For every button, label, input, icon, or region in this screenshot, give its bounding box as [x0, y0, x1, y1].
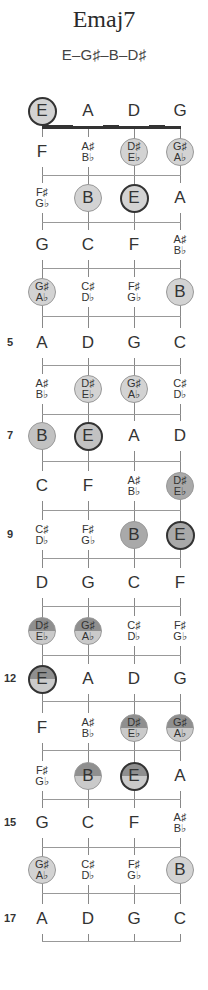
fret-note-fret4-d-string: F♯G♭ — [119, 277, 149, 307]
fret-note-fret12-a-string: A — [73, 664, 103, 694]
note-name: B — [82, 188, 93, 208]
note-name-flat: D♭ — [173, 389, 188, 400]
note-name: E — [36, 669, 47, 689]
chord-tone-marker-fret13-g-string: G♯A♭ — [166, 714, 194, 742]
fret-line — [42, 941, 181, 942]
note-name: B — [174, 282, 185, 302]
chord-tone-marker-fret6-d-string: G♯A♭ — [120, 375, 148, 403]
fret-note-fret17-d-string: G — [119, 904, 149, 934]
fret-note-fret10-e-string: D — [27, 568, 57, 598]
fret-note-fret8-a-string: F — [73, 471, 103, 501]
fret-note-fret5-d-string: G — [119, 328, 149, 358]
fret-line — [42, 365, 181, 366]
note-name: G — [34, 813, 49, 833]
note-name-flat: E♭ — [36, 631, 48, 642]
fret-line — [42, 847, 181, 848]
note-name: E — [128, 766, 139, 786]
fret-note-fret17-e-string: A — [27, 904, 57, 934]
chord-tone-marker-fret8-g-string: D♯E♭ — [166, 472, 194, 500]
note-name-flat: D♭ — [35, 535, 50, 546]
note-name-flat: A♭ — [36, 292, 48, 303]
note-name: D — [81, 909, 95, 929]
note-name: G — [34, 235, 49, 255]
fret-note-fret15-d-string: F — [119, 808, 149, 838]
note-name-flat: G♭ — [34, 776, 50, 787]
fret-line — [42, 750, 181, 751]
root-note-marker-fret14-d-string: E — [120, 762, 149, 791]
note-name: C — [127, 573, 141, 593]
note-name: A — [173, 766, 186, 786]
fret-note-fret3-g-string: A♯B♭ — [165, 230, 195, 260]
fret-line — [42, 606, 181, 607]
note-name: C — [173, 909, 187, 929]
fret-note-fret8-e-string: C — [27, 471, 57, 501]
fret-note-fret3-a-string: C — [73, 230, 103, 260]
note-name-flat: D♭ — [81, 292, 96, 303]
chord-tone-marker-fret13-d-string: D♯E♭ — [120, 714, 148, 742]
note-name: C — [173, 333, 187, 353]
note-name-flat: D♭ — [127, 631, 142, 642]
fret-note-fret5-e-string: A — [27, 328, 57, 358]
fret-line — [42, 414, 181, 415]
note-name-flat: E♭ — [128, 152, 140, 163]
note-name-flat: B♭ — [35, 389, 49, 400]
fret-note-fret11-d-string: C♯D♭ — [119, 616, 149, 646]
note-name: D — [127, 669, 141, 689]
chord-tone-marker-fret11-e-string: D♯E♭ — [28, 617, 56, 645]
note-name-flat: B♭ — [173, 823, 187, 834]
root-note-marker-fret2-d-string: E — [120, 184, 149, 213]
fret-line — [42, 510, 181, 511]
note-name-flat: A♭ — [36, 870, 48, 881]
fret-note-fret5-g-string: C — [165, 328, 195, 358]
root-note-marker-fret12-e-string: E — [28, 665, 57, 694]
fret-note-fret9-e-string: C♯D♭ — [27, 520, 57, 550]
note-name: D — [173, 426, 187, 446]
note-name: F — [36, 142, 48, 162]
note-name: C — [35, 476, 49, 496]
note-name: A — [81, 669, 94, 689]
fret-note-fret9-a-string: F♯G♭ — [73, 520, 103, 550]
fret-note-fret0-d-string: D — [119, 96, 149, 126]
note-name: B — [82, 766, 93, 786]
note-name-flat: G♭ — [80, 535, 96, 546]
fret-line — [42, 701, 181, 702]
note-name: C — [81, 235, 95, 255]
note-name-flat: G♭ — [34, 198, 50, 209]
note-name-flat: A♭ — [82, 631, 94, 642]
note-name-flat: A♭ — [128, 389, 140, 400]
chord-tone-marker-fret6-a-string: D♯E♭ — [74, 375, 102, 403]
chord-tone-marker-fret11-a-string: G♯A♭ — [74, 617, 102, 645]
fret-note-fret15-g-string: A♯B♭ — [165, 808, 195, 838]
note-name-flat: G♭ — [126, 870, 142, 881]
fret-note-fret10-g-string: F — [165, 568, 195, 598]
fret-line — [42, 799, 181, 800]
note-name: C — [81, 813, 95, 833]
fret-note-fret3-e-string: G — [27, 230, 57, 260]
note-name-flat: B♭ — [81, 152, 95, 163]
fret-note-fret13-a-string: A♯B♭ — [73, 713, 103, 743]
fret-note-fret6-e-string: A♯B♭ — [27, 374, 57, 404]
note-name: D — [81, 333, 95, 353]
note-name: E — [128, 188, 139, 208]
note-name: A — [173, 188, 186, 208]
root-note-marker-fret0-e-string: E — [28, 97, 57, 126]
fret-note-fret14-e-string: F♯G♭ — [27, 761, 57, 791]
chord-tone-marker-fret1-g-string: G♯A♭ — [166, 138, 194, 166]
fret-line — [42, 461, 181, 462]
fret-note-fret17-a-string: D — [73, 904, 103, 934]
fret-note-fret1-e-string: F — [27, 137, 57, 167]
fret-number-12: 12 — [4, 672, 16, 684]
note-name-flat: G♭ — [172, 631, 188, 642]
chord-tone-marker-fret2-a-string: B — [74, 184, 102, 212]
note-name-flat: B♭ — [81, 728, 95, 739]
fret-note-fret8-d-string: A♯B♭ — [119, 471, 149, 501]
note-name: B — [128, 525, 139, 545]
fret-note-fret10-a-string: G — [73, 568, 103, 598]
fret-note-fret7-d-string: A — [119, 421, 149, 451]
fret-note-fret5-a-string: D — [73, 328, 103, 358]
note-name: F — [128, 813, 140, 833]
fret-note-fret13-e-string: F — [27, 713, 57, 743]
note-name-flat: E♭ — [174, 486, 186, 497]
fret-note-fret17-g-string: C — [165, 904, 195, 934]
fret-number-15: 15 — [4, 816, 16, 828]
